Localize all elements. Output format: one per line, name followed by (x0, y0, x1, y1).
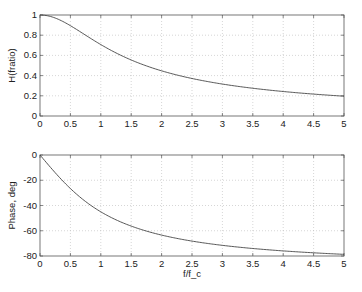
x-tick-label: 3.5 (246, 118, 259, 129)
y-tick-label: 0.4 (24, 70, 37, 81)
y-tick-label: 0.6 (24, 49, 37, 60)
x-tick-label: 5 (341, 118, 346, 129)
y-axis-label: H(fratio) (6, 48, 17, 82)
y-tick-label: -80 (23, 250, 37, 261)
x-tick-label: 1.5 (125, 258, 138, 269)
y-tick-label: 0 (32, 149, 37, 160)
x-tick-label: 4 (281, 258, 286, 269)
y-tick-label: 1 (32, 9, 37, 20)
x-axis-label: f/f_c (183, 268, 201, 279)
x-tick-label: 5 (341, 258, 346, 269)
x-tick-label: 4.5 (307, 258, 320, 269)
y-axis-label: Phase, deg (6, 181, 17, 229)
y-tick-label: 0 (32, 110, 37, 121)
x-tick-label: 1.5 (125, 118, 138, 129)
x-tick-label: 0 (37, 118, 42, 129)
x-tick-label: 3.5 (246, 258, 259, 269)
x-tick-label: 2 (159, 118, 164, 129)
x-tick-label: 0 (37, 258, 42, 269)
y-tick-label: -60 (23, 225, 37, 236)
y-tick-label: -20 (23, 174, 37, 185)
x-tick-label: 4 (281, 118, 286, 129)
x-tick-label: 2.5 (185, 118, 198, 129)
x-tick-label: 1 (98, 258, 103, 269)
x-tick-label: 0.5 (64, 258, 77, 269)
y-tick-label: 0.8 (24, 29, 37, 40)
x-tick-label: 2 (159, 258, 164, 269)
x-tick-label: 3 (220, 258, 225, 269)
axes-phase: 00.511.522.533.544.550-20-40-60-80Phase,… (6, 149, 347, 279)
x-tick-label: 4.5 (307, 118, 320, 129)
x-tick-label: 0.5 (64, 118, 77, 129)
figure: 00.511.522.533.544.5500.20.40.60.81H(fra… (0, 0, 362, 292)
y-tick-label: 0.2 (24, 90, 37, 101)
axes-magnitude: 00.511.522.533.544.5500.20.40.60.81H(fra… (6, 9, 347, 129)
y-tick-label: -40 (23, 200, 37, 211)
x-tick-label: 3 (220, 118, 225, 129)
x-tick-label: 1 (98, 118, 103, 129)
